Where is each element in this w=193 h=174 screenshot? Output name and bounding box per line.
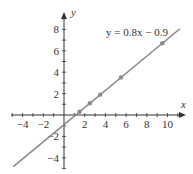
y-tick-label: 8 [54,23,60,35]
data-point [98,92,102,96]
y-axis-label: y [70,6,76,18]
x-axis-label: x [180,98,186,110]
equation-annotation: y = 0.8x − 0.9 [106,26,168,38]
y-tick-label: 4 [54,66,60,78]
x-tick-label: −2 [37,118,49,130]
line-chart: −4−2246810−4−22468 x y y = 0.8x − 0.9 [0,0,193,174]
x-tick-label: 2 [82,118,88,130]
data-point [119,75,123,79]
regression-line [13,29,180,167]
x-tick-label: 6 [123,118,129,130]
data-point [88,101,92,105]
x-tick-label: 10 [162,118,174,130]
x-axis-arrow-icon [179,112,186,118]
x-tick-label: −4 [17,118,29,130]
x-tick-label: 4 [103,118,109,130]
data-point [77,110,81,114]
data-point [160,41,164,45]
y-tick-label: 6 [54,45,60,57]
y-axis-arrow-icon [61,12,67,19]
y-tick-label: 2 [54,88,60,100]
x-tick-label: 8 [144,118,150,130]
line-series [13,29,180,167]
y-tick-label: −4 [47,152,59,164]
